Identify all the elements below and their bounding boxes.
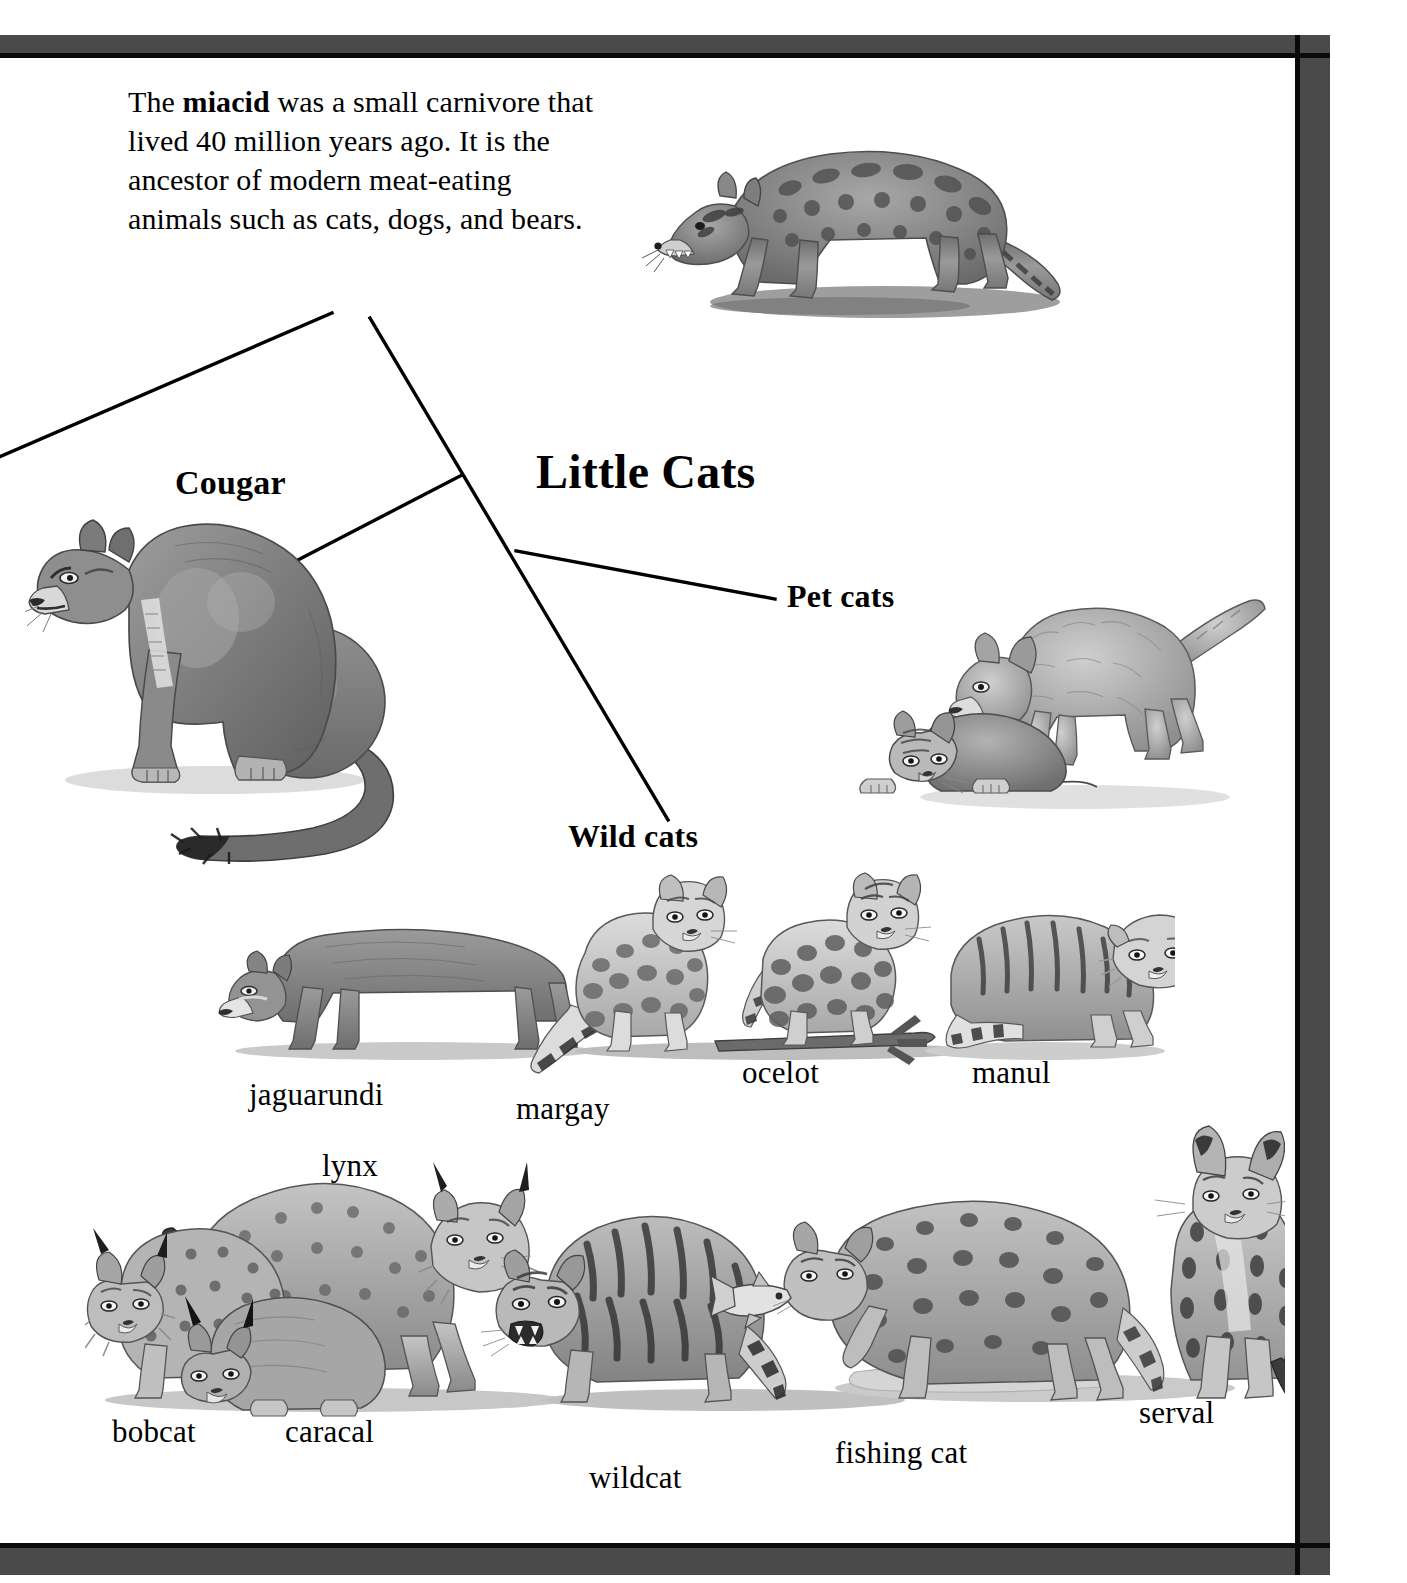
wild-cats-middle-row-illustration [215,855,1175,1075]
frame-bottom-band [0,1548,1330,1575]
pet-kittens-illustration [845,535,1295,825]
intro-bold-term: miacid [183,85,270,118]
frame-right-band [1300,35,1330,1575]
jaguarundi-figure [219,929,577,1049]
cougar-illustration [25,450,455,890]
frame-inner-line-top [0,53,1330,58]
frame-inner-line-right [1295,35,1300,1575]
wild-cats-bottom-row-illustration [85,1100,1285,1430]
intro-paragraph: The miacid was a small carnivore that li… [128,82,608,238]
manul-figure [946,915,1175,1048]
serval-figure [1155,1126,1285,1398]
frame-top-band [0,35,1330,53]
label-wild-cats: Wild cats [568,818,698,855]
miacid-illustration [640,88,1090,328]
intro-prefix: The [128,85,183,118]
ocelot-figure [715,873,935,1065]
label-wildcat: wildcat [589,1460,682,1496]
frame-inner-line-bottom [0,1543,1330,1548]
label-fishing-cat: fishing cat [835,1435,967,1471]
page-title: Little Cats [536,444,756,499]
